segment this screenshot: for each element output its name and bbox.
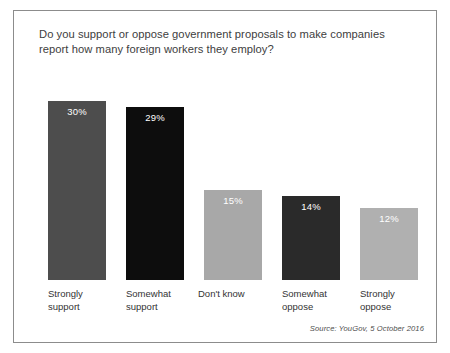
bar[interactable]: 30% bbox=[48, 101, 106, 280]
bar-category-label: Stronglyoppose bbox=[360, 288, 430, 313]
bar-group: 30%Stronglysupport bbox=[48, 11, 106, 342]
bar-category-label: Don't know bbox=[198, 288, 268, 301]
bar-category-label-line2: oppose bbox=[360, 301, 430, 314]
bar-value-label: 29% bbox=[126, 112, 184, 123]
bar-category-label: Somewhatoppose bbox=[282, 288, 352, 313]
bar-category-label: Stronglysupport bbox=[48, 288, 118, 313]
bar-category-label: Somewhatsupport bbox=[126, 288, 196, 313]
bar-category-label-line1: Strongly bbox=[360, 288, 430, 301]
bar-category-label-line1: Somewhat bbox=[282, 288, 352, 301]
bar-group: 12%Stronglyoppose bbox=[360, 11, 418, 342]
bar-category-label-line2: support bbox=[48, 301, 118, 314]
bar-value-label: 12% bbox=[360, 213, 418, 224]
bar-value-label: 30% bbox=[48, 106, 106, 117]
bar[interactable]: 12% bbox=[360, 208, 418, 280]
source-note: Source: YouGov, 5 October 2016 bbox=[310, 324, 424, 333]
bar-category-label-line1: Strongly bbox=[48, 288, 118, 301]
bar[interactable]: 29% bbox=[126, 107, 184, 280]
bar-value-label: 14% bbox=[282, 201, 340, 212]
bar[interactable]: 15% bbox=[204, 190, 262, 280]
bar-group: 29%Somewhatsupport bbox=[126, 11, 184, 342]
bar[interactable]: 14% bbox=[282, 196, 340, 280]
bar-category-label-line1: Don't know bbox=[198, 288, 268, 301]
bar-category-label-line1: Somewhat bbox=[126, 288, 196, 301]
chart-figure: Do you support or oppose government prop… bbox=[13, 10, 437, 343]
bar-group: 15%Don't know bbox=[204, 11, 262, 342]
bar-category-label-line2: oppose bbox=[282, 301, 352, 314]
bar-group: 14%Somewhatoppose bbox=[282, 11, 340, 342]
plot-area: 30%Stronglysupport29%Somewhatsupport15%D… bbox=[14, 11, 436, 342]
bar-category-label-line2: support bbox=[126, 301, 196, 314]
bar-value-label: 15% bbox=[204, 195, 262, 206]
